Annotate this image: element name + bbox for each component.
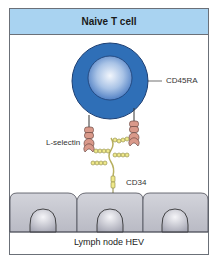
hev-label: Lymph node HEV <box>0 237 218 247</box>
l-selectin-left <box>84 115 94 152</box>
l-selectin-right <box>129 108 139 146</box>
endothelium <box>10 193 208 232</box>
l-selectin-label: L-selectin <box>46 138 80 147</box>
cd45ra-label: CD45RA <box>166 76 198 85</box>
t-cell <box>72 43 148 119</box>
diagram-illustration <box>0 0 218 263</box>
cd34-label: CD34 <box>126 178 146 187</box>
